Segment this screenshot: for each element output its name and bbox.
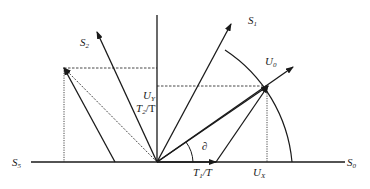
component-arrow-left xyxy=(64,68,115,162)
label-u0: U0 xyxy=(265,56,276,69)
s1-vector xyxy=(157,24,231,162)
label-t2-ratio: T2/T xyxy=(136,103,155,116)
diagram-drawing xyxy=(0,0,370,189)
label-s5: S5 xyxy=(12,157,21,170)
label-angle: ∂ xyxy=(202,141,207,152)
label-s1: S1 xyxy=(248,15,257,28)
component-arrow-right xyxy=(216,86,268,162)
resultant-vector-right xyxy=(157,86,268,162)
limit-arc xyxy=(225,50,292,162)
space-vector-diagram: S1 S2 U0 UY T2/T S5 S0 ∂ T1/T UX xyxy=(0,0,370,189)
label-s2: S2 xyxy=(80,37,89,50)
angle-arc xyxy=(186,142,193,162)
label-ux: UX xyxy=(253,167,265,180)
label-t1-ratio: T1/T xyxy=(193,167,212,180)
label-s0: S0 xyxy=(347,157,356,170)
